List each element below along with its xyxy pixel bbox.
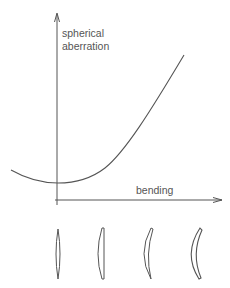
y-axis xyxy=(55,13,60,205)
y-axis-label-line2: aberration xyxy=(62,40,109,52)
y-axis-label-line1: spherical xyxy=(62,27,104,39)
lens-plano-convex xyxy=(98,228,104,279)
x-axis-label: bending xyxy=(136,184,173,196)
lens-biconvex xyxy=(56,229,60,279)
x-axis xyxy=(55,198,222,203)
lens-strong-meniscus xyxy=(191,228,202,279)
aberration-curve xyxy=(11,55,184,183)
diagram-canvas xyxy=(0,0,230,288)
lens-meniscus xyxy=(144,228,153,279)
